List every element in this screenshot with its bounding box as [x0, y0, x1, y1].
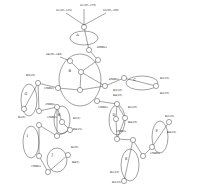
- router-node: [54, 104, 59, 109]
- router-node: [114, 101, 119, 106]
- group-label: I: [27, 134, 29, 138]
- annotation-label: 40Mb/s: [97, 46, 107, 49]
- network-link: [38, 83, 39, 111]
- annotation-label: S4(30~140): [46, 53, 62, 56]
- annotation-label: R4(20): [167, 131, 176, 134]
- router-node: [35, 80, 40, 85]
- group-label: D: [113, 113, 116, 117]
- annotation-label: 15Mb/s: [98, 106, 108, 109]
- router-node: [86, 47, 91, 52]
- annotation-label: R4(15): [73, 128, 82, 131]
- annotation-label: R1(5): [73, 117, 80, 120]
- annotation-label: R1(10): [110, 171, 119, 174]
- router-node: [67, 58, 72, 63]
- network-link: [39, 125, 57, 136]
- annotation-label: R2(20): [112, 181, 121, 184]
- network-diagram: ABCGHDFIJE S1(20~170)S1(20~135)S3(30~100…: [0, 0, 199, 194]
- network-link: [84, 27, 89, 50]
- router-node: [166, 119, 171, 124]
- router-node: [78, 69, 83, 74]
- group-label: C: [133, 78, 136, 82]
- router-node: [153, 83, 158, 88]
- group-label: E: [125, 157, 128, 161]
- annotation-label: 15Mb/s: [44, 87, 54, 90]
- router-node: [140, 153, 145, 158]
- flow-arrow: [84, 13, 106, 25]
- group-label: F: [156, 129, 159, 133]
- annotation-label: S1(20~170): [80, 4, 96, 7]
- annotation-label: S3(30~100): [103, 9, 119, 12]
- annotation-label: R3(10): [113, 89, 122, 92]
- annotation-label: R1(20): [128, 106, 137, 109]
- router-node: [114, 136, 119, 141]
- network-link: [81, 72, 105, 86]
- annotation-label: 15Mb/s: [116, 130, 126, 133]
- router-node: [77, 87, 82, 92]
- network-link: [58, 88, 80, 90]
- annotation-label: R4(10): [113, 94, 122, 97]
- annotation-label: R1(0): [18, 116, 25, 119]
- router-node: [36, 153, 41, 158]
- router-node: [95, 57, 100, 62]
- annotation-label: R4(20): [128, 121, 137, 124]
- network-link: [116, 119, 117, 139]
- group-ellipse: [23, 126, 39, 158]
- group-label: A: [75, 33, 79, 37]
- group-ellipse: [70, 31, 98, 45]
- router-node: [67, 127, 72, 132]
- router-node: [121, 75, 126, 80]
- group-ellipse: [47, 148, 67, 172]
- router-node: [45, 169, 50, 174]
- annotation-label: S1(20~135): [56, 9, 72, 12]
- annotation-label: 15Mb/s: [150, 152, 160, 155]
- network-link: [80, 86, 105, 90]
- router-node: [121, 178, 126, 183]
- group-label: G: [25, 92, 28, 96]
- annotation-label: 15Mb/s: [31, 165, 41, 168]
- flow-arrow: [66, 13, 84, 25]
- link-and-flow-labels: S1(20~170)S1(20~135)S3(30~100)S4(30~140)…: [18, 4, 176, 184]
- annotation-label: R4(5): [72, 161, 79, 164]
- group-label: B: [68, 69, 71, 73]
- annotation-label: R2(10): [165, 115, 174, 118]
- group-ellipse: [126, 76, 158, 90]
- router-node: [54, 133, 59, 138]
- annotation-label: R1(10): [160, 77, 169, 80]
- router-node: [94, 98, 99, 103]
- router-node: [36, 122, 41, 127]
- network-link: [81, 60, 98, 72]
- router-node: [122, 115, 127, 120]
- group-ellipses: ABCGHDFIJE: [21, 31, 168, 181]
- router-node: [59, 119, 64, 124]
- router-node: [21, 106, 26, 111]
- flow-arrow: [60, 57, 68, 60]
- router-node: [36, 108, 41, 113]
- network-link: [133, 140, 143, 156]
- network-link: [97, 101, 117, 104]
- router-node: [113, 116, 118, 121]
- router-node: [149, 144, 154, 149]
- network-link: [48, 155, 68, 172]
- router-node: [102, 83, 107, 88]
- annotation-label: R2(10): [160, 92, 169, 95]
- router-node: [81, 24, 86, 29]
- router-node: [55, 85, 60, 90]
- router-node: [65, 152, 70, 157]
- annotation-label: R5(20): [26, 74, 35, 77]
- router-node: [130, 137, 135, 142]
- annotation-label: 25Mb/s: [45, 103, 55, 106]
- annotation-label: R1(0): [71, 146, 78, 149]
- annotation-label: 15Mb/s: [47, 116, 57, 119]
- annotation-label: 45Mb/s: [109, 78, 119, 81]
- network-link: [124, 78, 156, 86]
- group-label: J: [51, 153, 54, 157]
